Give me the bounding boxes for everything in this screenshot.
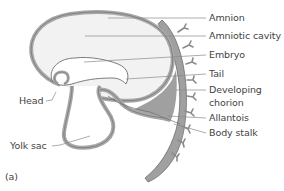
label-allantois: Allantois [209, 113, 249, 123]
label-head: Head [19, 96, 43, 106]
label-body-stalk: Body stalk [209, 128, 258, 138]
label-developing-chorion-line2: chorion [209, 98, 244, 108]
panel-label: (a) [5, 172, 18, 182]
label-amnion: Amnion [209, 13, 245, 23]
embryo-membranes-diagram: Amnion Amniotic cavity Embryo Tail Devel… [0, 0, 284, 191]
amnion-shape [31, 12, 173, 101]
label-developing-chorion-line1: Developing [209, 85, 262, 95]
label-embryo: Embryo [209, 50, 245, 60]
label-tail: Tail [209, 69, 224, 79]
label-yolk-sac: Yolk sac [10, 141, 47, 151]
label-amniotic-cavity: Amniotic cavity [209, 31, 281, 41]
